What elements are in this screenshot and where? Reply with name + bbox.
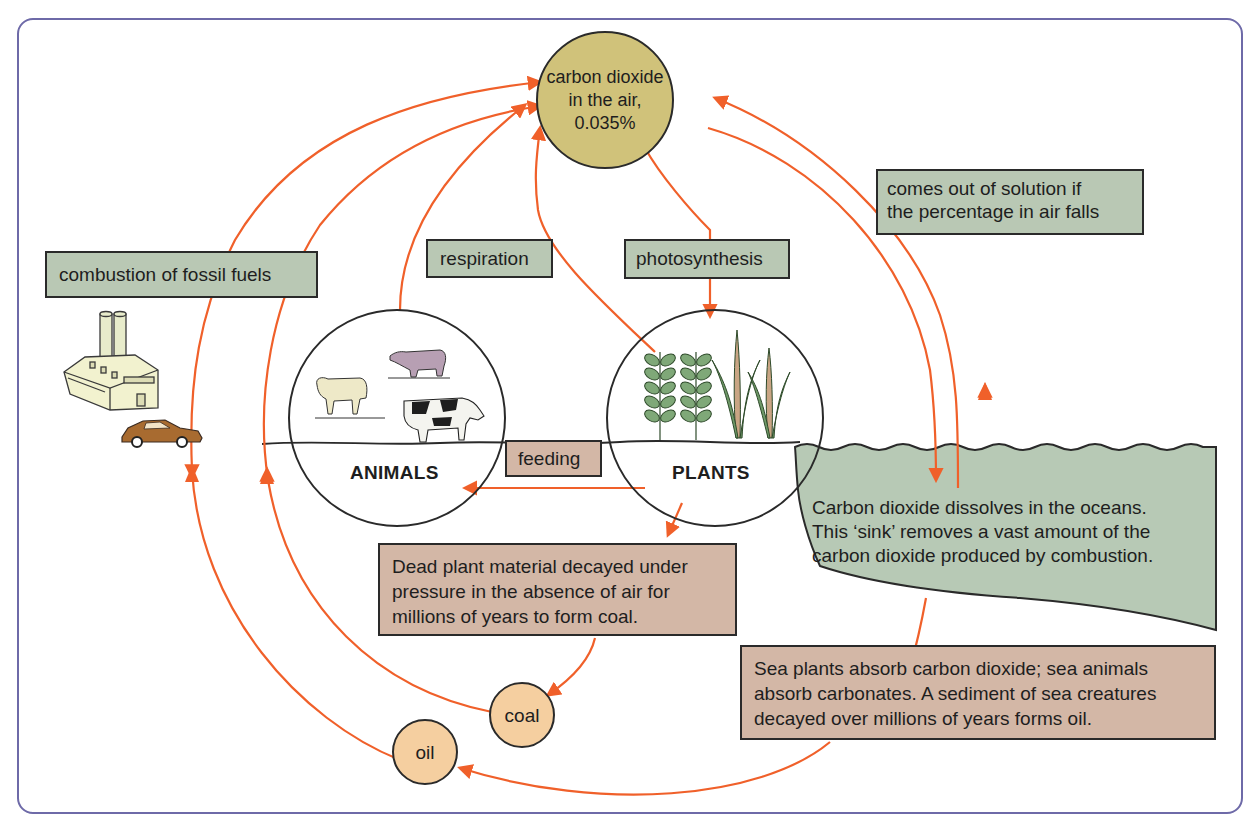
ocean-line3: carbon dioxide produced by combustion. xyxy=(812,544,1153,568)
photosynthesis-label: photosynthesis xyxy=(624,239,790,279)
leafy-plant-icon xyxy=(643,352,678,440)
plants-circle xyxy=(607,310,823,526)
ocean-line1: Carbon dioxide dissolves in the oceans. xyxy=(812,496,1153,520)
oil-formation-box: Sea plants absorb carbon dioxide; sea an… xyxy=(740,645,1216,740)
coal-formation-box: Dead plant material decayed under pressu… xyxy=(378,543,737,636)
arrow-decay-to-coal xyxy=(548,638,595,695)
pig-icon xyxy=(388,350,450,378)
leafy-plant-icon xyxy=(679,352,714,440)
sheep-icon xyxy=(315,378,385,418)
photosynthesis-text: photosynthesis xyxy=(636,248,763,269)
out-of-solution-line2: the percentage in air falls xyxy=(887,200,1134,223)
arrow-oil-to-air xyxy=(191,82,540,760)
combustion-text: combustion of fossil fuels xyxy=(59,264,271,285)
oil-label: oil xyxy=(393,741,457,764)
oil-formation-line3: decayed over millions of years forms oil… xyxy=(754,706,1206,731)
coal-formation-line1: Dead plant material decayed under xyxy=(392,554,727,579)
oil-formation-line2: absorb carbonates. A sediment of sea cre… xyxy=(754,681,1206,706)
car-icon xyxy=(122,420,202,447)
coal-formation-line2: pressure in the absence of air for xyxy=(392,579,727,604)
co2-line1: carbon dioxide xyxy=(537,66,673,89)
factory-icon xyxy=(64,312,158,411)
co2-air-label: carbon dioxide in the air, 0.035% xyxy=(537,66,673,135)
out-of-solution-line1: comes out of solution if xyxy=(887,177,1134,200)
cow-icon xyxy=(404,398,484,442)
feeding-text: feeding xyxy=(518,448,580,469)
animals-label: ANIMALS xyxy=(350,462,439,484)
ocean-description: Carbon dioxide dissolves in the oceans. … xyxy=(812,496,1153,568)
co2-line2: in the air, xyxy=(537,89,673,112)
arrow-sea-box-to-oil xyxy=(460,742,830,795)
feeding-label: feeding xyxy=(505,440,602,477)
grass-plant-icon xyxy=(712,330,790,438)
coal-label: coal xyxy=(490,704,554,727)
respiration-text: respiration xyxy=(440,248,529,269)
arrow-ocean-to-air xyxy=(715,98,958,488)
oil-formation-line1: Sea plants absorb carbon dioxide; sea an… xyxy=(754,656,1206,681)
out-of-solution-label: comes out of solution if the percentage … xyxy=(876,169,1144,235)
ocean-line2: This ‘sink’ removes a vast amount of the xyxy=(812,520,1153,544)
respiration-label: respiration xyxy=(426,239,553,278)
combustion-label: combustion of fossil fuels xyxy=(45,251,318,298)
co2-line3: 0.035% xyxy=(537,112,673,135)
arrow-respiration xyxy=(400,105,525,310)
coal-formation-line3: millions of years to form coal. xyxy=(392,604,727,629)
plants-label: PLANTS xyxy=(672,462,750,484)
